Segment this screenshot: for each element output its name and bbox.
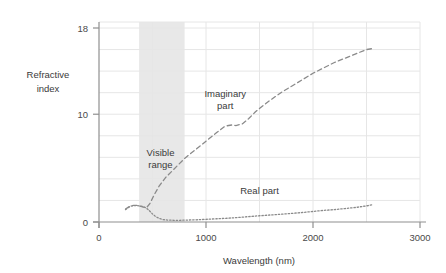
x-tick-label: 1000 (195, 232, 216, 243)
shaded-region-visible-range (139, 22, 184, 222)
visible-range-label-line2: range (148, 159, 172, 170)
y-axis-title-line2: index (37, 83, 60, 94)
y-tick-label: 18 (77, 23, 88, 34)
x-tick-label: 0 (96, 232, 101, 243)
imaginary-part-label-line2: part (217, 100, 234, 111)
shaded-region-group (139, 22, 184, 222)
x-axis-title: Wavelength (nm) (223, 255, 295, 266)
real-part-label-line1: Real part (240, 185, 279, 196)
visible-range-label-line1: Visible (147, 147, 175, 158)
x-tick-label: 2000 (302, 232, 323, 243)
visible-range-label: Visiblerange (147, 147, 175, 170)
x-tick-label: 3000 (409, 232, 430, 243)
imaginary-part-label-line1: Imaginary (204, 88, 246, 99)
y-tick-label: 10 (77, 109, 88, 120)
chart-figure: 010002000300001018 ImaginarypartReal par… (0, 0, 446, 273)
real-part-label: Real part (240, 185, 279, 196)
chart-background (0, 0, 446, 273)
y-tick-label: 0 (83, 217, 88, 228)
y-axis-title-line1: Refractive (27, 69, 70, 80)
refractive-index-chart: 010002000300001018 ImaginarypartReal par… (0, 0, 446, 273)
